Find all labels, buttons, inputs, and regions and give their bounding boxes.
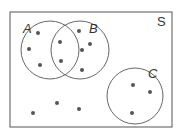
universe-label: S [157,14,166,29]
point-a-and-b [58,40,62,44]
point-c-only [131,83,135,87]
point-a-and-b [59,59,63,63]
point-c-only [130,111,134,115]
point-a-only [36,31,40,35]
point-c-only [148,90,152,94]
point-a-only [27,47,31,51]
point-b-only [77,29,81,33]
point-outside [77,107,81,111]
points-group [27,29,152,115]
point-b-only [80,68,84,72]
set-b-label: B [89,21,98,36]
set-a-label: A [22,21,32,36]
point-b-only [88,42,92,46]
point-b-only [80,48,84,52]
point-outside [31,111,35,115]
point-a-only [38,63,42,67]
venn-diagram: S A B C [0,0,181,130]
set-c-label: C [148,66,158,81]
point-outside [55,101,59,105]
